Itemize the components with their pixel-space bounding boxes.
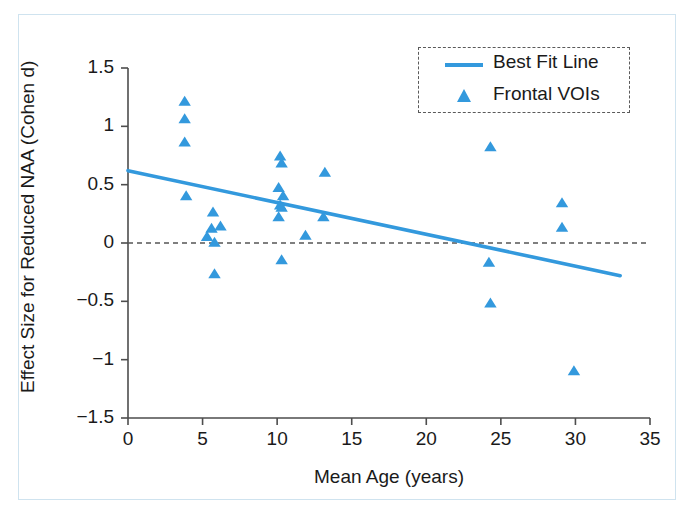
legend-label: Frontal VOIs xyxy=(493,83,600,105)
y-tick-label: −0.5 xyxy=(44,289,114,311)
y-axis-label: Effect Size for Reduced NAA (Cohen d) xyxy=(17,93,39,393)
best-fit-line xyxy=(128,171,620,276)
y-tick-label: 0.5 xyxy=(44,173,114,195)
legend: Best Fit Line Frontal VOIs xyxy=(418,47,630,113)
figure-root: Effect Size for Reduced NAA (Cohen d) Me… xyxy=(0,0,695,521)
y-tick-label: −1.5 xyxy=(44,406,114,428)
x-tick-label: 10 xyxy=(247,428,307,450)
x-tick-label: 35 xyxy=(620,428,680,450)
y-tick-label: 0 xyxy=(44,231,114,253)
x-axis-label: Mean Age (years) xyxy=(128,466,650,488)
legend-entry-frontal-vois: Frontal VOIs xyxy=(419,80,631,113)
legend-line-icon xyxy=(445,63,483,67)
x-tick-label: 15 xyxy=(322,428,382,450)
x-tick-label: 5 xyxy=(173,428,233,450)
x-tick-label: 25 xyxy=(471,428,531,450)
legend-entry-best-fit-line: Best Fit Line xyxy=(419,48,631,81)
x-tick-label: 30 xyxy=(545,428,605,450)
y-tick-label: 1 xyxy=(44,114,114,136)
y-tick-label: −1 xyxy=(44,348,114,370)
x-tick-label: 20 xyxy=(396,428,456,450)
legend-triangle-icon xyxy=(457,89,471,102)
data-points xyxy=(178,96,580,376)
x-tick-label: 0 xyxy=(98,428,158,450)
y-tick-label: 1.5 xyxy=(44,56,114,78)
legend-label: Best Fit Line xyxy=(493,51,599,73)
